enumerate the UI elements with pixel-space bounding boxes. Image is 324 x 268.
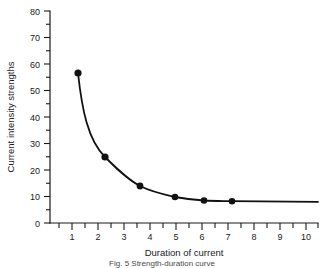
y-axis-tick-labels: 80 70 60 50 40 30 20 10 0 xyxy=(30,7,40,229)
x-tick-label: 1 xyxy=(69,232,74,242)
x-tick-label: 3 xyxy=(121,232,126,242)
figure-caption: Fig. 5 Strength-duration curve xyxy=(109,259,215,268)
x-tick-label: 6 xyxy=(199,232,204,242)
y-tick-label: 10 xyxy=(30,192,40,202)
y-axis-title-group: Current intensity strengths xyxy=(5,61,16,172)
strength-duration-figure: Current intensity strengths xyxy=(0,0,324,268)
x-tick-label: 2 xyxy=(95,232,100,242)
x-axis-title: Duration of current xyxy=(145,247,224,258)
data-points xyxy=(74,69,235,204)
y-tick-label: 60 xyxy=(30,60,40,70)
figure-caption-clip: Fig. 5 Strength-duration curve xyxy=(0,259,324,268)
data-point xyxy=(74,69,81,76)
x-axis-tick-labels: 1 2 3 4 5 6 7 8 9 10 xyxy=(69,232,311,242)
x-tick-label: 7 xyxy=(225,232,230,242)
y-tick-label: 20 xyxy=(30,166,40,176)
data-point xyxy=(229,198,236,205)
y-tick-label: 70 xyxy=(30,33,40,43)
data-point xyxy=(137,183,144,190)
x-tick-label: 9 xyxy=(277,232,282,242)
x-tick-label: 10 xyxy=(301,232,311,242)
y-tick-label: 80 xyxy=(30,7,40,17)
figure-caption-canvas: Fig. 5 Strength-duration curve xyxy=(0,259,324,268)
y-axis-title: Current intensity strengths xyxy=(5,61,16,172)
y-tick-label: 50 xyxy=(30,86,40,96)
data-point xyxy=(201,197,208,204)
y-tick-label: 40 xyxy=(30,113,40,123)
data-point xyxy=(172,194,179,201)
x-tick-label: 8 xyxy=(251,232,256,242)
data-curve xyxy=(78,73,318,202)
chart-canvas: Current intensity strengths xyxy=(0,0,324,268)
x-tick-label: 4 xyxy=(147,232,152,242)
y-tick-label: 0 xyxy=(35,219,40,229)
y-axis-major-ticks xyxy=(44,11,50,223)
y-tick-label: 30 xyxy=(30,139,40,149)
x-tick-label: 5 xyxy=(173,232,178,242)
data-point xyxy=(101,153,108,160)
